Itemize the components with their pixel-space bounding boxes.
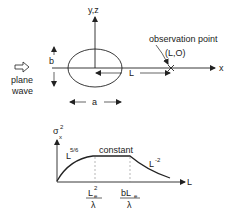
height-label: b: [49, 57, 54, 66]
region2-label: constant: [99, 146, 133, 155]
tick2-numerator-sub: e: [134, 193, 137, 199]
region3-label: L: [149, 160, 154, 169]
width-label: a: [92, 98, 97, 107]
distance-label: L: [129, 69, 134, 78]
plane-wave-arrow-icon: [15, 62, 29, 72]
diagram-canvas: [0, 0, 229, 215]
plane-wave-label-line2: wave: [12, 87, 33, 96]
tick2-denominator: λ: [127, 201, 132, 210]
chart-x-label: L: [187, 178, 192, 187]
plane-wave-label-line1: plane: [11, 76, 33, 85]
chart-y-label: σ: [53, 127, 59, 136]
tick1-numerator-sup: 2: [94, 185, 97, 191]
tick1-numerator: L: [88, 189, 93, 198]
chart-y-label-sup: 2: [60, 124, 63, 130]
tick2-numerator: bL: [121, 189, 131, 198]
observation-point-label: observation point: [149, 35, 218, 44]
region1-exponent: 5/6: [70, 147, 78, 153]
tick1-numerator-sub: e: [94, 193, 97, 199]
scattering-geometry: [15, 17, 215, 102]
chart-y-label-sub: x: [59, 134, 62, 140]
observation-coords-label: (L,O): [165, 49, 186, 58]
region3-exponent: -2: [155, 157, 160, 163]
region1-label: L: [66, 152, 71, 161]
horizontal-axis-label: x: [219, 64, 224, 73]
vertical-axis-label: y,z: [88, 6, 99, 15]
tick1-denominator: λ: [91, 201, 96, 210]
